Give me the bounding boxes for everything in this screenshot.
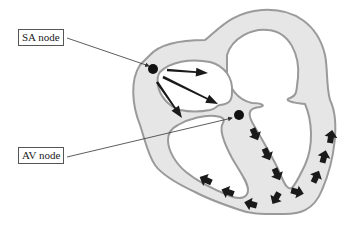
av-node-dot: [234, 110, 244, 120]
sa-node-label: SA node: [18, 29, 64, 46]
left-atrium-cavity: [157, 60, 232, 111]
sa-leader-line: [67, 38, 149, 66]
sa-node-dot: [148, 64, 158, 74]
av-node-label: AV node: [18, 147, 64, 164]
